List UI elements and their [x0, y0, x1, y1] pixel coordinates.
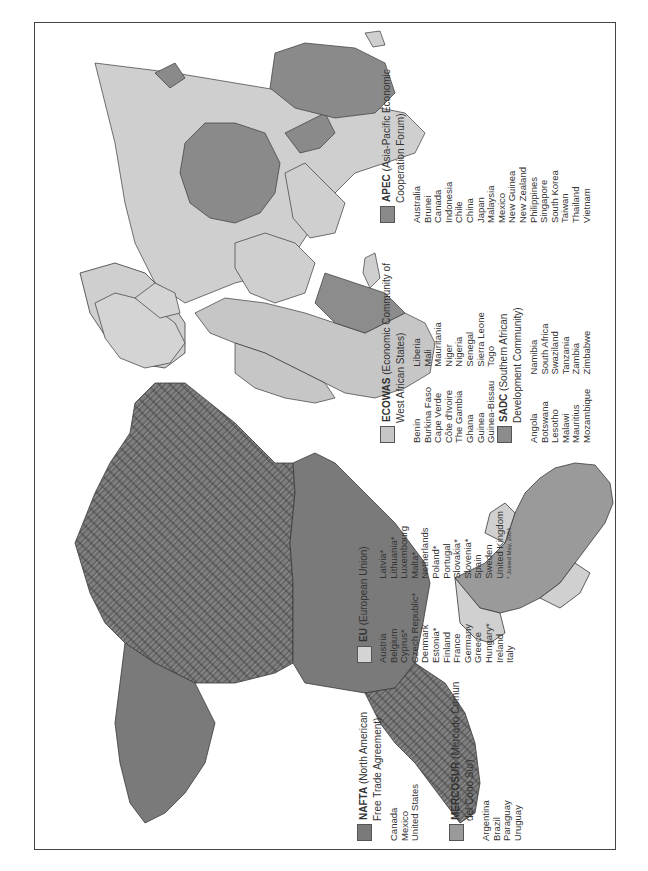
mercosur-swatch: [449, 824, 464, 841]
eu-abbr: EU: [358, 628, 369, 642]
sadc-swatch: [497, 426, 512, 443]
mercosur-members: Argentina Brazil Paraguay Uruguay: [481, 682, 523, 841]
list-item: Thailand: [571, 69, 582, 223]
list-item: Angola: [529, 389, 540, 443]
list-item: Senegal: [465, 312, 476, 366]
sadc-name-1: (Southern African: [498, 314, 509, 391]
eu-members-col1: Austria Belgium Cyprus* Czech Republic* …: [378, 593, 516, 663]
apec-swatch: [380, 206, 395, 223]
legend-nafta: NAFTA (North American Free Trade Agreeme…: [357, 712, 421, 841]
list-item: Vietnam: [582, 69, 593, 223]
list-item: Austria: [378, 593, 389, 663]
nafta-name-2: Free Trade Agreement): [372, 712, 383, 841]
legend-apec: APEC (Asia-Pacific Economic Cooperation …: [380, 69, 592, 223]
legend-mercosur: MERCOSUR (Mercado Comun del Cono Sur) Ar…: [449, 682, 523, 841]
list-item: Hungary*: [484, 593, 495, 663]
list-item: Latvia*: [378, 511, 389, 579]
ecowas-swatch: [380, 426, 395, 443]
sadc-members-col2: Namibia South Africa Swaziland Tanzania …: [529, 323, 593, 374]
sadc-name-2: Development Community): [512, 307, 523, 443]
list-item: Togo: [486, 312, 497, 366]
list-item: Estonia*: [431, 593, 442, 663]
eu-swatch: [357, 646, 372, 663]
list-item: Mozambique: [582, 389, 593, 443]
mercosur-name-1: (Mercado Comun: [450, 682, 461, 759]
nafta-members: Canada Mexico United States: [389, 712, 421, 841]
list-item: United States: [410, 712, 421, 841]
legend-ecowas: ECOWAS (Economic Community of West Afric…: [380, 263, 497, 443]
apec-name-1: (Asia-Pacific Economic: [381, 69, 392, 171]
list-item: Australia: [412, 69, 423, 223]
eu-members-col2: Latvia* Lithuania* Luxembourg Malta* Net…: [378, 511, 516, 579]
ecowas-name-1: (Economic Community of: [381, 263, 392, 375]
list-item: Benin: [412, 381, 423, 443]
sadc-members-col1: Angola Botswana Lesotho Malawi Mauritius…: [529, 389, 593, 443]
sadc-abbr: SADC: [498, 394, 509, 422]
eu-footnote: * Joined May, 2004: [505, 511, 513, 579]
list-item: Italy: [505, 593, 516, 663]
ecowas-abbr: ECOWAS: [381, 378, 392, 422]
list-item: Ghana: [465, 381, 476, 443]
list-item: Indonesia: [444, 69, 455, 223]
apec-name-2: Cooperation Forum): [395, 69, 406, 223]
list-item: Sweden: [484, 511, 495, 579]
ecowas-members-col1: Benin Burkina Faso Cape Verde Côte d'Ivo…: [412, 381, 497, 443]
apec-members: Australia Brunei Canada Indonesia Chile …: [412, 69, 592, 223]
map-frame: NAFTA (North American Free Trade Agreeme…: [34, 22, 616, 850]
list-item: New Zealand: [518, 69, 529, 223]
list-item: Argentina: [481, 682, 492, 841]
list-item: United Kingdom: [495, 511, 506, 579]
list-item: China: [465, 69, 476, 223]
legend-sadc: SADC (Southern African Development Commu…: [497, 307, 593, 443]
ecowas-members-col2: Liberia Mali Mauritania Niger Nigeria Se…: [412, 312, 497, 366]
nafta-swatch: [357, 824, 372, 841]
mercosur-name-2: del Cono Sur): [464, 682, 475, 841]
list-item: Liberia: [412, 312, 423, 366]
list-item: Poland*: [431, 511, 442, 579]
apec-abbr: APEC: [381, 174, 392, 202]
eu-name: (European Union): [358, 546, 369, 625]
list-item: Guinea-Bissau: [486, 381, 497, 443]
nafta-abbr: NAFTA: [358, 787, 369, 820]
list-item: Zimbabwe: [582, 323, 593, 374]
list-item: Namibia: [529, 323, 540, 374]
legend-eu: EU (European Union) Austria Belgium Cypr…: [357, 511, 516, 663]
list-item: Canada: [389, 712, 400, 841]
ecowas-name-2: West African States): [395, 263, 406, 443]
list-item: Uruguay: [513, 682, 524, 841]
mercosur-abbr: MERCOSUR: [450, 762, 461, 820]
nafta-name-1: (North American: [358, 712, 369, 784]
